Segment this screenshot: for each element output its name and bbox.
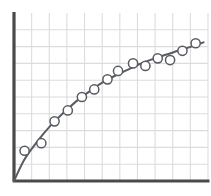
data-point-marker bbox=[50, 117, 59, 126]
chart-figure bbox=[0, 0, 211, 196]
data-point-marker bbox=[165, 55, 174, 64]
data-point-marker bbox=[153, 54, 162, 63]
data-point-marker bbox=[141, 61, 150, 70]
data-point-marker bbox=[113, 66, 122, 75]
data-point-marker bbox=[90, 85, 99, 94]
scatter-plot-svg bbox=[0, 0, 211, 196]
data-point-marker bbox=[77, 92, 86, 101]
data-point-marker bbox=[191, 39, 200, 48]
data-point-marker bbox=[63, 106, 72, 115]
data-point-marker bbox=[20, 146, 29, 155]
data-point-marker bbox=[178, 46, 187, 55]
data-point-marker bbox=[37, 139, 46, 148]
data-point-marker bbox=[103, 75, 112, 84]
data-point-marker bbox=[128, 59, 137, 68]
